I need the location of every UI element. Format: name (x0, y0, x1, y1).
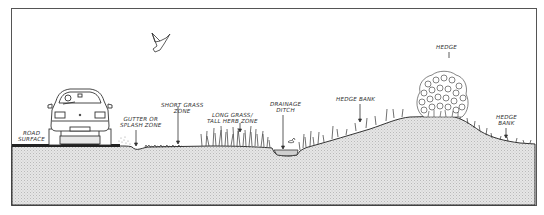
label-hedge-bank-right: HEDGE BANK (496, 114, 517, 127)
label-short-grass-zone: SHORT GRASS ZONE (161, 102, 203, 115)
label-drainage-ditch: DRAINAGE DITCH (270, 101, 301, 114)
ditch-water (274, 150, 298, 156)
label-long-grass-zone: LONG GRASS/ TALL HERB ZONE (207, 112, 258, 125)
label-hedge: HEDGE (436, 44, 457, 50)
label-gutter-splash-zone: GUTTER OR SPLASH ZONE (120, 116, 162, 129)
label-road-surface: ROAD SURFACE (18, 130, 45, 143)
label-hedge-bank: HEDGE BANK (336, 96, 375, 102)
car-illustration (48, 89, 112, 145)
